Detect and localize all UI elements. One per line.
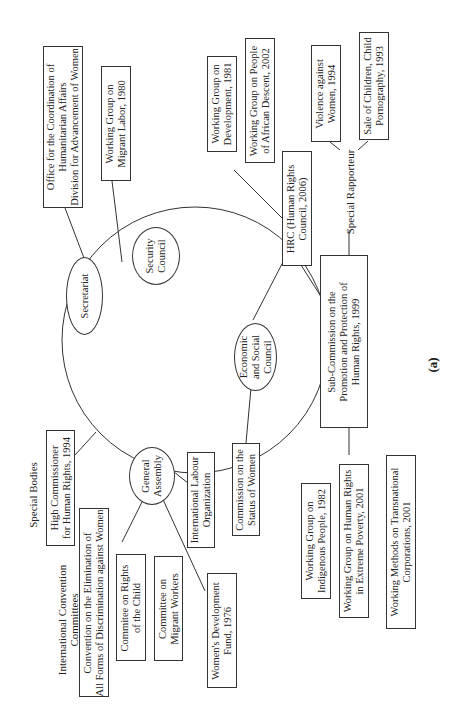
box-committee-migrant-workers: Committee on Migrant Workers <box>154 556 183 661</box>
box-international-labour-organization: International Labour Organization <box>187 452 215 548</box>
box-working-group-migrant-labor: Working Group on Migrant Labor, 1980 <box>101 66 131 181</box>
box-high-commissioner-human-rights: High Commissioner for Human Rights, 1994 <box>46 430 75 546</box>
un-organization-diagram: Secretariat Security Council General Ass… <box>0 0 461 723</box>
box-sale-of-children: Sale of Children, Child Pornography, 199… <box>359 32 389 140</box>
box-womens-development-fund: Women's Development Fund, 1976 <box>207 573 237 688</box>
box-cedaw: Convention on the Elimination of All For… <box>79 508 109 697</box>
node-economic-and-social-council: Economic and Social Council <box>234 323 277 391</box>
box-working-group-indigenous-people: Working Group on Indigenous People, 1982 <box>301 483 331 599</box>
box-working-methods-transnational-corporations: Working Methods on Transnational Corpora… <box>386 455 416 629</box>
box-working-group-extreme-poverty: Working Group on Human Rights in Extreme… <box>339 464 369 618</box>
box-violence-against-women: Violence against Women, 1994 <box>311 45 341 142</box>
panel-label: (a) <box>424 350 442 380</box>
box-working-group-development: Working Group on Development, 1981 <box>207 56 237 152</box>
box-sub-commission: Sub-Commission on the Promotion and Prot… <box>320 255 368 428</box>
box-hrc: HRC (Human Rights Council, 2006) <box>282 151 312 266</box>
node-general-assembly: General Assembly <box>129 447 175 505</box>
box-committee-rights-of-child: Commitee on Rights of the Child <box>116 554 146 661</box>
label-special-bodies: Special Bodies <box>25 455 41 535</box>
node-security-council: Security Council <box>132 227 180 285</box>
box-working-group-african-descent: Working Group on People of African Desce… <box>245 38 275 163</box>
label-special-rapporteur: Special Rapporteur <box>343 152 357 232</box>
node-secretariat: Secretariat <box>66 257 103 335</box>
box-commission-status-of-women: Commission on the Status of Women <box>232 443 260 536</box>
box-office-coordination-humanitarian-affairs: Office for the Coordination of Humanitar… <box>43 46 83 208</box>
